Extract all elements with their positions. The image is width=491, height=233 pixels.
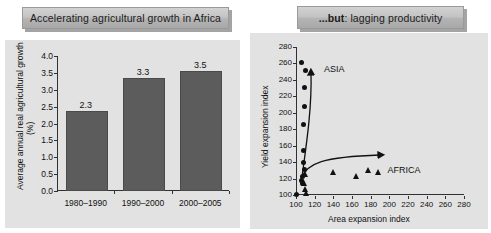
scatter-chart-y-tick-label: 100 bbox=[268, 190, 292, 199]
bar-chart-bar bbox=[66, 111, 108, 191]
scatter-point-africa bbox=[303, 190, 309, 196]
right-panel-banner-rest: : lagging productivity bbox=[344, 12, 442, 24]
scatter-chart-x-tick-label: 100 bbox=[286, 200, 306, 209]
scatter-chart-x-axis-line bbox=[296, 194, 464, 195]
scatter-point-asia bbox=[301, 160, 306, 165]
scatter-chart-y-tick-label: 260 bbox=[268, 58, 292, 67]
bar-chart-y-tick-label: 0.0 bbox=[31, 186, 53, 196]
scatter-chart-y-tick-label: 140 bbox=[268, 157, 292, 166]
scatter-series-label-asia: ASIA bbox=[324, 64, 345, 74]
scatter-chart-y-axis-line bbox=[296, 47, 297, 196]
bar-chart-category-label: 2000–2005 bbox=[172, 198, 229, 208]
scatter-chart-x-tick-label: 220 bbox=[398, 200, 418, 209]
right-panel-banner: ...but: lagging productivity bbox=[297, 6, 464, 29]
bar-chart-value-label: 2.3 bbox=[58, 100, 114, 110]
scatter-point-asia bbox=[302, 104, 307, 109]
scatter-point-africa bbox=[365, 167, 371, 173]
scatter-chart-x-tick-label: 120 bbox=[305, 200, 325, 209]
scatter-chart-x-tick-label: 280 bbox=[454, 200, 474, 209]
scatter-chart-y-tick-label: 180 bbox=[268, 124, 292, 133]
scatter-point-asia bbox=[302, 85, 307, 90]
scatter-chart-x-tick bbox=[445, 196, 446, 199]
scatter-series-label-africa: AFRICA bbox=[387, 165, 420, 175]
scatter-chart-y-tick-label: 200 bbox=[268, 108, 292, 117]
bar-chart-y-tick-label: 4.0 bbox=[31, 51, 53, 61]
scatter-chart-x-tick bbox=[427, 196, 428, 199]
scatter-point-asia bbox=[301, 148, 306, 153]
scatter-chart-x-tick bbox=[352, 196, 353, 199]
bar-chart-y-axis-line bbox=[57, 56, 58, 192]
bar-chart-y-tick-label: 3.0 bbox=[31, 85, 53, 95]
scatter-chart-x-tick bbox=[389, 196, 390, 199]
bar-chart-x-tick bbox=[229, 191, 230, 194]
scatter-chart-x-tick bbox=[371, 196, 372, 199]
bar-chart-y-tick-label: 1.5 bbox=[31, 135, 53, 145]
bar-chart-x-tick bbox=[172, 191, 173, 194]
bar-chart-category-label: 1980–1990 bbox=[57, 198, 114, 208]
scatter-chart-plot-area: ASIAAFRICA bbox=[296, 47, 464, 195]
scatter-chart-x-tick bbox=[333, 196, 334, 199]
left-panel-banner-text: Accelerating agricultural growth in Afri… bbox=[30, 12, 221, 24]
right-panel-banner-bold: ...but bbox=[319, 12, 345, 24]
scatter-chart-x-tick-label: 200 bbox=[379, 200, 399, 209]
bar-chart-bar bbox=[180, 71, 222, 191]
bar-chart-y-tick-label: 3.5 bbox=[31, 68, 53, 78]
scatter-chart-x-tick-label: 180 bbox=[361, 200, 381, 209]
bar-chart-category-label: 1990–2000 bbox=[114, 198, 171, 208]
scatter-chart-y-tick-label: 240 bbox=[268, 75, 292, 84]
bar-chart-y-axis-title: Average annual real agricultural growth bbox=[15, 42, 25, 190]
scatter-point-africa bbox=[302, 171, 308, 177]
bar-chart-y-tick-label: 2.5 bbox=[31, 102, 53, 112]
bar-chart-y-tick-label: 1.0 bbox=[31, 152, 53, 162]
bar-chart-bar bbox=[123, 78, 165, 191]
scatter-chart-x-axis-title: Area expansion index bbox=[328, 214, 410, 224]
scatter-point-asia bbox=[294, 192, 299, 197]
bar-chart-y-tick-label: 0.5 bbox=[31, 169, 53, 179]
scatter-chart-panel: Yield expansion index Area expansion ind… bbox=[250, 33, 488, 229]
scatter-chart-x-tick-label: 240 bbox=[417, 200, 437, 209]
scatter-point-asia bbox=[299, 60, 304, 65]
scatter-chart-y-tick-label: 160 bbox=[268, 141, 292, 150]
scatter-point-africa bbox=[353, 173, 359, 179]
bar-chart-value-label: 3.5 bbox=[172, 60, 228, 70]
scatter-chart-x-tick bbox=[315, 196, 316, 199]
left-panel-banner: Accelerating agricultural growth in Afri… bbox=[22, 7, 229, 29]
bar-chart-panel: Average annual real agricultural growth … bbox=[5, 40, 240, 228]
scatter-point-africa bbox=[330, 169, 336, 175]
scatter-chart-y-tick-label: 220 bbox=[268, 91, 292, 100]
scatter-chart-x-tick bbox=[464, 196, 465, 199]
scatter-chart-y-tick-label: 120 bbox=[268, 174, 292, 183]
bar-chart-y-tick-label: 2.0 bbox=[31, 119, 53, 129]
scatter-chart-x-tick-label: 160 bbox=[342, 200, 362, 209]
scatter-chart-x-tick-label: 140 bbox=[323, 200, 343, 209]
bar-chart-x-tick bbox=[114, 191, 115, 194]
bar-chart-plot-area: 2.33.33.5 bbox=[57, 56, 229, 191]
bar-chart-value-label: 3.3 bbox=[115, 67, 171, 77]
scatter-chart-y-tick-label: 280 bbox=[268, 42, 292, 51]
scatter-chart-x-tick bbox=[408, 196, 409, 199]
scatter-point-africa bbox=[375, 169, 381, 175]
scatter-chart-x-tick-label: 260 bbox=[435, 200, 455, 209]
scatter-point-asia bbox=[303, 68, 308, 73]
scatter-point-asia bbox=[301, 122, 306, 127]
